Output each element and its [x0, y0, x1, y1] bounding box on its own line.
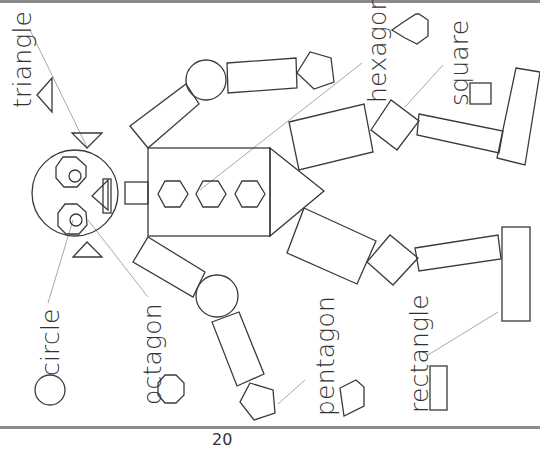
arm-lower-hand-pentagon — [240, 383, 275, 420]
leg-upper-rect-1 — [289, 104, 373, 170]
label-circle: circle — [36, 308, 65, 376]
arm-upper-rect-2 — [227, 58, 297, 93]
ear-triangle-top — [72, 133, 102, 148]
leg-lower-rect-2 — [415, 235, 501, 271]
leg-upper-foot-rect — [497, 68, 540, 165]
arm-upper — [130, 52, 334, 148]
neck-rectangle — [125, 182, 148, 204]
label-octagon: octagon — [138, 303, 167, 405]
hexagon-icon — [392, 14, 428, 44]
bottom-rule — [0, 426, 540, 429]
leader-circle — [48, 220, 73, 303]
leg-upper-knee-square — [371, 100, 419, 150]
robot-head — [32, 133, 118, 257]
leader-square — [405, 65, 443, 107]
pentagon-icon — [340, 380, 364, 416]
arm-upper-joint-circle — [186, 60, 226, 100]
leader-hexagon — [200, 63, 362, 190]
leader-octagon — [88, 220, 148, 297]
circle-icon — [35, 375, 65, 405]
arm-lower-rect-1 — [133, 237, 205, 297]
nose-triangle — [92, 180, 108, 210]
leg-lower-rect-1 — [287, 208, 376, 284]
leg-upper — [289, 68, 540, 170]
leader-rectangle — [428, 312, 498, 355]
body-hexagon-2 — [196, 181, 226, 207]
label-hexagon: hexagon — [363, 0, 392, 103]
leader-triangle — [30, 30, 87, 147]
body-hexagon-3 — [235, 181, 265, 207]
pupil-circle-bottom — [70, 214, 82, 226]
label-square: square — [445, 20, 474, 106]
body-rectangle — [148, 148, 270, 236]
arm-upper-hand-pentagon — [297, 52, 334, 89]
arm-upper-rect-1 — [130, 84, 199, 148]
label-rectangle: rectangle — [405, 294, 434, 413]
triangle-icon — [37, 78, 52, 112]
arm-lower-joint-circle — [196, 275, 238, 317]
arm-lower-rect-2 — [212, 312, 264, 386]
body-hexagon-1 — [158, 181, 188, 207]
label-pentagon: pentagon — [311, 296, 340, 416]
leg-lower-foot-rect — [502, 227, 530, 321]
leader-pentagon — [278, 380, 305, 404]
eye-octagon-bottom — [58, 204, 87, 234]
leg-upper-rect-2 — [417, 114, 503, 153]
pupil-circle-top — [69, 170, 81, 182]
page-number: 20 — [212, 432, 232, 448]
ear-triangle-bottom — [73, 242, 102, 257]
label-triangle: triangle — [8, 11, 37, 108]
head-circle — [32, 150, 118, 236]
